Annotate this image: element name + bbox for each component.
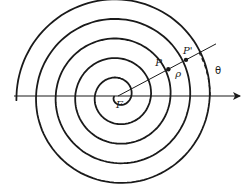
archimedean-spiral-curve: [16, 0, 209, 183]
point-p-label: P: [154, 57, 162, 68]
point-p-dot: [166, 67, 170, 71]
spiral-diagram: F P P' ρ θ: [0, 0, 252, 191]
point-p-prime-dot: [184, 58, 188, 62]
theta-label: θ: [215, 65, 221, 76]
focus-label: F: [115, 99, 124, 110]
rho-label: ρ: [174, 68, 181, 79]
point-p-prime-label: P': [182, 45, 192, 56]
spiral-figure: F P P' ρ θ: [0, 0, 252, 191]
